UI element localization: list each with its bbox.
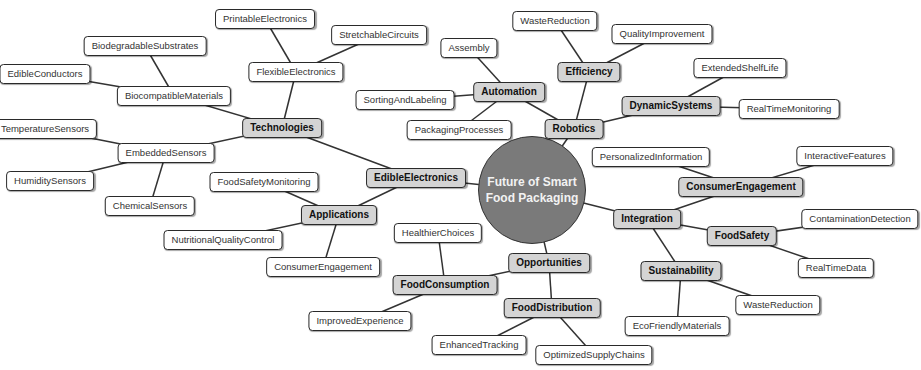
node-sustainability: Sustainability [640, 261, 721, 281]
root-label: Future of Smart Food Packaging [479, 174, 585, 206]
node-edible-conductors: EdibleConductors [0, 64, 91, 84]
node-personalized: PersonalizedInformation [592, 147, 710, 167]
node-embedded: EmbeddedSensors [118, 143, 215, 163]
node-optimized-supply: OptimizedSupplyChains [535, 345, 652, 365]
node-food-consumption: FoodConsumption [393, 275, 498, 295]
node-applications: Applications [301, 205, 377, 225]
node-food-safety: FoodSafety [707, 226, 777, 246]
node-flexible: FlexibleElectronics [248, 62, 343, 82]
node-robotics: Robotics [545, 119, 604, 139]
node-waste-red1: WasteReduction [512, 11, 597, 31]
mindmap-canvas: Future of Smart Food Packaging EdibleEle… [0, 0, 921, 370]
node-healthier: HealthierChoices [394, 223, 482, 243]
node-enhanced-track: EnhancedTracking [432, 335, 527, 355]
node-chemical: ChemicalSensors [105, 196, 195, 216]
node-assembly: Assembly [440, 38, 497, 58]
node-consumer-eng-app: ConsumerEngagement [266, 257, 380, 277]
node-food-distribution: FoodDistribution [504, 298, 601, 318]
node-biodegradable: BiodegradableSubstrates [84, 36, 207, 56]
node-real-time-data: RealTimeData [798, 258, 874, 278]
node-biocompatible: BiocompatibleMaterials [117, 86, 231, 106]
node-interactive: InteractiveFeatures [796, 146, 893, 166]
node-automation: Automation [473, 82, 545, 102]
node-humidity: HumiditySensors [6, 171, 94, 191]
node-nutritional: NutritionalQualityControl [164, 230, 283, 250]
node-food-safety-mon: FoodSafetyMonitoring [210, 172, 319, 192]
node-dynamic: DynamicSystems [622, 96, 721, 116]
node-sorting: SortingAndLabeling [356, 90, 455, 110]
node-edible: EdibleElectronics [366, 168, 466, 188]
node-eco-friendly: EcoFriendlyMaterials [625, 316, 730, 336]
node-real-time-mon: RealTimeMonitoring [739, 99, 840, 119]
node-technologies: Technologies [242, 118, 322, 138]
node-temperature: TemperatureSensors [0, 119, 97, 139]
root-node: Future of Smart Food Packaging [478, 136, 586, 244]
node-quality: QualityImprovement [611, 24, 712, 44]
node-packaging: PackagingProcesses [407, 120, 512, 140]
node-integration: Integration [613, 209, 681, 229]
node-printable: PrintableElectronics [215, 9, 315, 29]
node-opportunities: Opportunities [508, 253, 590, 273]
node-efficiency: Efficiency [557, 62, 620, 82]
node-improved-exp: ImprovedExperience [308, 311, 411, 331]
node-shelf-life: ExtendedShelfLife [693, 58, 786, 78]
node-waste-red2: WasteReduction [735, 295, 820, 315]
node-contamination: ContaminationDetection [801, 209, 918, 229]
node-consumer-eng: ConsumerEngagement [678, 177, 803, 197]
node-stretchable: StretchableCircuits [331, 25, 427, 45]
